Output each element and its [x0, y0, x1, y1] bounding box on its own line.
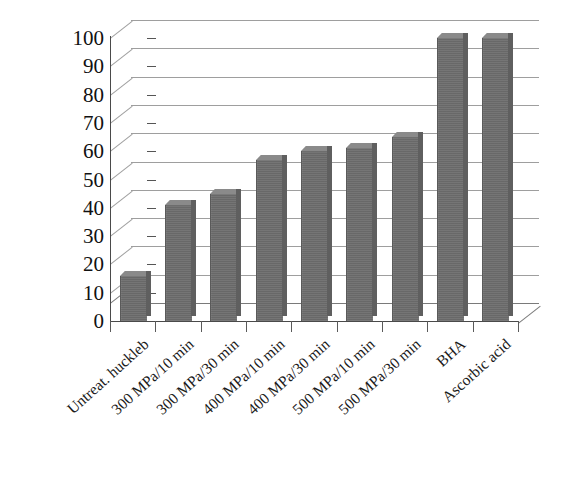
grid-line	[131, 190, 539, 191]
y-axis-tick-mark	[147, 151, 156, 152]
bar	[210, 194, 237, 321]
y-axis-tick-label: 50	[83, 170, 104, 191]
y-axis-tick-mark	[147, 123, 156, 124]
y-axis-tick-mark	[147, 95, 156, 96]
bar-side-face	[146, 271, 151, 316]
grid-riser	[110, 191, 133, 209]
y-axis-line	[110, 36, 111, 322]
x-axis-labels: Untreat. huckleb300 MPa/10 min300 MPa/30…	[0, 330, 588, 470]
y-axis-tick-mark	[147, 208, 156, 209]
bar-side-face	[236, 189, 241, 316]
grid-line	[131, 77, 539, 78]
y-axis-tick-label: 30	[83, 226, 104, 247]
bar-side-face	[418, 132, 423, 316]
bar-side-face	[191, 200, 196, 316]
chart-figure: 1009080706050403020100 Untreat. huckleb3…	[0, 0, 588, 500]
grid-riser	[110, 162, 133, 180]
y-axis-tick-label: 0	[94, 311, 105, 332]
y-axis-tick-label: 80	[83, 85, 104, 106]
grid-riser	[110, 21, 133, 39]
floor-right-edge	[518, 303, 545, 323]
y-axis-tick-label: 90	[83, 56, 104, 77]
y-axis-tick-mark	[147, 236, 156, 237]
y-axis-tick-label: 60	[83, 141, 104, 162]
grid-line	[131, 133, 539, 134]
bar	[346, 148, 373, 321]
y-axis-tick-label: 10	[83, 283, 104, 304]
y-axis-labels: 1009080706050403020100	[44, 20, 104, 330]
grid-line	[131, 162, 539, 163]
bar	[482, 38, 509, 321]
bar-side-face	[463, 33, 468, 316]
y-axis-tick-mark	[147, 38, 156, 39]
bar	[120, 276, 147, 321]
bar	[437, 38, 464, 321]
bar	[256, 160, 283, 321]
grid-line	[131, 48, 539, 49]
bar	[392, 137, 419, 321]
y-axis-tick-mark	[147, 66, 156, 67]
grid-riser	[110, 49, 133, 67]
y-axis-tick-label: 100	[73, 28, 105, 49]
bar-side-face	[508, 33, 513, 316]
x-axis-line	[110, 321, 518, 322]
grid-riser	[110, 77, 133, 95]
bar-side-face	[282, 155, 287, 316]
y-axis-tick-label: 20	[83, 254, 104, 275]
grid-riser	[110, 219, 133, 237]
y-axis-tick-mark	[147, 264, 156, 265]
y-axis-tick-label: 40	[83, 198, 104, 219]
bar	[165, 205, 192, 321]
grid-riser	[110, 134, 133, 152]
grid-line	[131, 105, 539, 106]
grid-riser	[110, 247, 133, 265]
bar	[301, 151, 328, 321]
grid-line	[131, 20, 539, 21]
y-axis-tick-label: 70	[83, 113, 104, 134]
bar-side-face	[372, 143, 377, 316]
bar-side-face	[327, 146, 332, 316]
grid-riser	[110, 106, 133, 124]
y-axis-tick-mark	[147, 180, 156, 181]
